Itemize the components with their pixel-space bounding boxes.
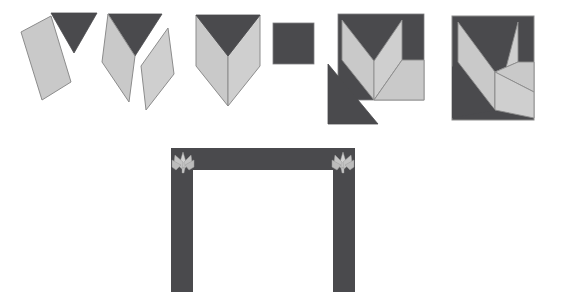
border-frame-with-corner-motifs [168,148,358,292]
frame-top-band [171,148,355,170]
step-6-completed-block [450,14,536,126]
step-5-block-with-corner-triangle [326,12,426,132]
step-4-dark-square [272,22,316,66]
step-2-two-diamonds-with-triangle [98,12,182,120]
light-diamond-right [141,28,174,110]
step-1-single-diamond-and-triangle [20,12,98,120]
dark-square [273,23,314,64]
step-3-joined-chevron-unit [190,12,270,118]
frame-inner-opening [193,170,333,292]
